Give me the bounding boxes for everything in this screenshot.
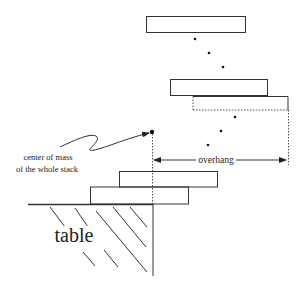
stacking-diagram: overhang center of mass of the whole sta… xyxy=(0,0,305,287)
center-of-mass-pointer-arrow xyxy=(60,133,149,150)
center-of-mass-dot xyxy=(150,130,154,134)
second-block xyxy=(171,80,268,96)
center-of-mass-label-line1: center of mass xyxy=(23,152,72,162)
ellipsis-dots-lower xyxy=(207,116,237,147)
top-block xyxy=(147,17,246,33)
third-block xyxy=(193,97,288,111)
table-label: table xyxy=(55,224,94,246)
ellipsis-dots-upper xyxy=(194,38,225,69)
overhang-label: overhang xyxy=(198,155,234,165)
fourth-block xyxy=(120,172,218,188)
center-of-mass-label-line2: of the whole stack xyxy=(16,164,79,174)
bottom-block xyxy=(91,187,189,204)
